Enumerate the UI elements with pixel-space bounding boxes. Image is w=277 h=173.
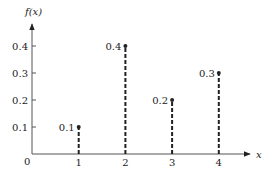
y-tick-label: 0.3: [12, 68, 28, 79]
origin-label: 0: [24, 156, 30, 167]
x-axis-label: x: [256, 149, 262, 160]
stem-point: [77, 125, 81, 129]
stem-point: [217, 71, 221, 75]
y-tick-label: 0.2: [12, 95, 28, 106]
value-label: 0.4: [105, 41, 121, 52]
value-label: 0.1: [59, 122, 75, 133]
value-label: 0.2: [152, 95, 168, 106]
x-tick-label: 1: [76, 157, 82, 168]
x-tick-label: 3: [169, 157, 175, 168]
y-tick-label: 0.4: [12, 41, 28, 52]
stem-point: [170, 98, 174, 102]
stems: 0.10.40.20.3: [59, 41, 221, 155]
value-label: 0.3: [199, 68, 215, 79]
pmf-stem-chart: f(x) x 0 0.10.20.30.4 1234 0.10.40.20.3: [0, 0, 277, 173]
x-tick-label: 4: [216, 157, 222, 168]
x-ticks: 1234: [76, 157, 222, 168]
y-axis-label: f(x): [24, 6, 42, 17]
y-tick-label: 0.1: [12, 122, 28, 133]
axes: f(x) x 0: [24, 6, 262, 167]
x-tick-label: 2: [122, 157, 128, 168]
stem-point: [123, 44, 127, 48]
